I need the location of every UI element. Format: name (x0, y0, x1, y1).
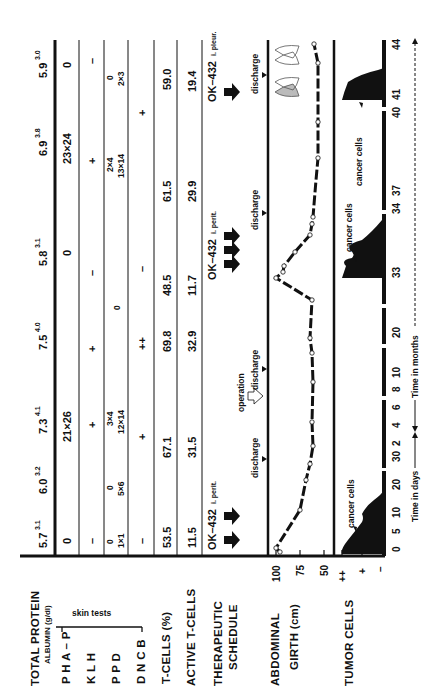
tcells-value: 48.5 (161, 275, 173, 296)
table-grid (20, 40, 385, 556)
klh-value: – (86, 538, 98, 544)
protein-value: 5.9 (37, 63, 49, 78)
svg-text:41: 41 (391, 88, 402, 100)
operation-label: operation (236, 373, 246, 412)
cancer-cells-label: cancer cells (344, 203, 354, 252)
ok432-route-1: i. perit. (210, 481, 218, 504)
lung-xray-icon (275, 46, 299, 97)
active-tcells-value: 19.4 (186, 70, 198, 92)
active-tcells-value: 29.9 (186, 181, 198, 202)
ppd-top-value: 0 (105, 485, 115, 490)
albumin-value: 4.0 (34, 322, 41, 332)
column-6: 5.9 3.0 0 – 0 2×3 + 59.0 19.4 (34, 50, 198, 116)
label-tumor-cells: TUMOR CELLS (343, 600, 355, 686)
klh-value: + (86, 158, 98, 164)
discharge-label: discharge (250, 438, 260, 478)
discharge-label: discharge (250, 54, 260, 94)
row-labels: TOTAL PROTEIN ALBUMIN (g/dl) P H A – P K… (29, 588, 355, 686)
chart-figure: TOTAL PROTEIN ALBUMIN (g/dl) P H A – P K… (0, 0, 436, 690)
albumin-value: 3.0 (34, 50, 41, 60)
label-active-t-cells: ACTIVE T-CELLS (185, 588, 197, 686)
ppd-bottom-value: 1×1 (116, 533, 126, 548)
dose-arrow-icon (224, 507, 240, 549)
svg-text:0: 0 (391, 546, 402, 552)
time-axis-ticks: 0 5 10 20 30 2 4 6 8 10 20 33 34 37 40 4… (391, 38, 402, 552)
months-label: Time in months (410, 335, 420, 398)
svg-text:20: 20 (391, 326, 402, 338)
ok432-route-2: i. perit. (210, 211, 218, 234)
svg-text:5: 5 (391, 528, 402, 534)
ppd-bottom-value: 12×14 (116, 410, 126, 434)
active-tcells-value: 11.7 (186, 275, 198, 296)
ppd-top-value: 2×4 (105, 157, 115, 172)
protein-value: 5.7 (37, 533, 49, 548)
ok432-route-3: i. pleur. (210, 31, 218, 56)
klh-value: – (86, 270, 98, 276)
ppd-bottom-value: 5×6 (116, 481, 126, 496)
label-total-protein: TOTAL PROTEIN (29, 591, 41, 686)
svg-text:8: 8 (391, 386, 402, 392)
protein-value: 7.5 (37, 335, 49, 350)
svg-text:34: 34 (391, 202, 402, 214)
label-therapeutic: THERAPEUTIC (212, 601, 224, 686)
klh-value: – (86, 58, 98, 64)
days-label: Time in days (410, 470, 420, 522)
protein-value: 6.9 (37, 141, 49, 156)
column-2: 7.3 4.1 21×26 + 3×4 12×14 + 67.1 31.5 (34, 406, 198, 458)
pha-value: 0 (61, 62, 73, 68)
label-t-cells: T-CELLS (%) (160, 612, 172, 684)
active-tcells-value: 32.9 (186, 331, 198, 352)
protein-value: 6.0 (37, 479, 49, 494)
dose-arrow-icon (224, 83, 240, 101)
label-klh: K L H (85, 653, 97, 684)
column-3: 7.5 4.0 + ++ 69.8 32.9 (34, 322, 198, 352)
albumin-value: 3.2 (34, 466, 41, 476)
klh-value: + (86, 422, 98, 428)
label-schedule: SCHEDULE (227, 604, 239, 670)
tumor-annotations: cancer cells cancer cells cancer cells (344, 102, 364, 532)
discharge-arrow-icon (262, 72, 267, 78)
svg-text:37: 37 (391, 184, 402, 196)
column-1: 6.0 3.2 0 5×6 (34, 466, 126, 496)
operation-arrow-icon (248, 388, 263, 404)
label-girth: GIRTH (cm) (288, 604, 300, 670)
column-5: 6.9 3.8 23×24 + 2×4 13×14 61.5 29.9 (34, 128, 198, 202)
tumor-tick-mid: + (357, 568, 368, 574)
girth-tick-50: 50 (319, 564, 330, 576)
pointer-arrow-icon (359, 102, 363, 108)
label-ppd: P P D (110, 653, 122, 684)
svg-text:10: 10 (391, 366, 402, 378)
ok432-label-1: OK–432 (206, 509, 218, 550)
label-pha: P H A – P (60, 631, 72, 684)
column-4: 5.8 3.1 0 – 0 – 48.5 11.7 (34, 238, 198, 310)
discharge-arrow-icon (262, 366, 267, 372)
label-abdominal: ABDOMINAL (269, 613, 281, 686)
dncb-value: – (136, 266, 148, 272)
ok432-label-3: OK–432 (206, 61, 218, 102)
svg-text:10: 10 (391, 506, 402, 518)
ppd-top-value: 0 (112, 305, 122, 310)
discharge-label: discharge (250, 350, 260, 390)
svg-text:33: 33 (391, 266, 402, 278)
pha-value: 0 (61, 538, 73, 544)
dncb-value: ++ (136, 337, 148, 350)
albumin-value: 3.8 (34, 128, 41, 138)
label-albumin: ALBUMIN (g/dl) (43, 605, 52, 664)
cancer-cells-label: cancer cells (354, 137, 364, 186)
svg-text:30: 30 (391, 450, 402, 462)
albumin-value: 4.1 (34, 406, 41, 416)
time-axis-legend: Time in days Time in months (410, 38, 420, 522)
tumor-tick-low: – (375, 566, 386, 572)
event-annotations: discharge operation discharge discharge … (236, 54, 267, 478)
cancer-cells-label: cancer cells (346, 479, 356, 528)
svg-text:40: 40 (391, 106, 402, 118)
ppd-top-value: 3×4 (105, 411, 115, 426)
tcells-value: 67.1 (161, 437, 173, 458)
svg-text:4: 4 (391, 422, 402, 428)
tcells-value: 69.8 (161, 331, 173, 352)
svg-text:44: 44 (391, 38, 402, 50)
svg-text:6: 6 (391, 404, 402, 410)
tumor-tick-high: ++ (337, 570, 348, 582)
discharge-arrow-icon (262, 210, 267, 216)
label-dncb: D N C B (135, 639, 147, 684)
